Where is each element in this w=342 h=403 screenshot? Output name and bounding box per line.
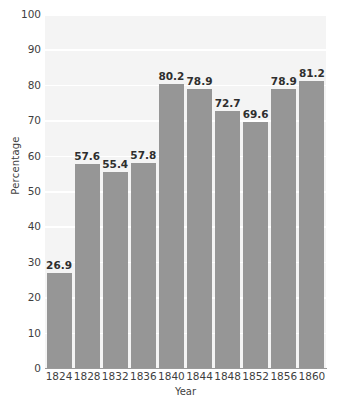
x-axis-tick: 1860 [298, 370, 326, 382]
bar-value-label: 26.9 [45, 259, 73, 271]
bar[interactable] [131, 163, 156, 368]
y-axis-tick: 0 [0, 362, 41, 374]
x-axis-tick: 1840 [157, 370, 185, 382]
bar-value-label: 57.6 [73, 150, 101, 162]
bar[interactable] [75, 164, 100, 368]
bar-value-label: 78.9 [270, 75, 298, 87]
bar-value-label: 55.4 [101, 158, 129, 170]
bar-slot: 78.9 [185, 14, 213, 368]
y-axis-tick: 40 [0, 220, 41, 232]
bar-slot: 72.7 [214, 14, 242, 368]
bar-slot: 80.2 [157, 14, 185, 368]
x-axis-tick: 1828 [73, 370, 101, 382]
x-axis-tick: 1844 [185, 370, 213, 382]
bar-slot: 57.6 [73, 14, 101, 368]
y-axis-tick: 90 [0, 43, 41, 55]
bar-slot: 55.4 [101, 14, 129, 368]
y-axis-tick: 50 [0, 185, 41, 197]
bar-slot: 81.2 [298, 14, 326, 368]
x-axis-tick: 1856 [270, 370, 298, 382]
x-axis-line [45, 368, 327, 369]
bar[interactable] [271, 89, 296, 368]
x-axis-tick: 1852 [242, 370, 270, 382]
x-axis-tick: 1848 [214, 370, 242, 382]
x-axis-tick: 1832 [101, 370, 129, 382]
bar-value-label: 81.2 [298, 67, 326, 79]
bar-value-label: 80.2 [157, 70, 185, 82]
bars-container: 26.957.655.457.880.278.972.769.678.981.2 [45, 14, 326, 368]
y-axis-tick: 20 [0, 291, 41, 303]
y-axis-tick: 60 [0, 150, 41, 162]
y-axis-tick-labels: 0102030405060708090100 [0, 0, 41, 403]
bar[interactable] [47, 273, 72, 368]
x-axis-tick-labels: 1824182818321836184018441848185218561860 [45, 370, 326, 382]
bar-slot: 57.8 [129, 14, 157, 368]
bar-value-label: 69.6 [242, 108, 270, 120]
bar-value-label: 57.8 [129, 149, 157, 161]
bar-value-label: 78.9 [185, 75, 213, 87]
x-axis-tick: 1836 [129, 370, 157, 382]
bar[interactable] [243, 122, 268, 368]
x-axis-title: Year [45, 386, 326, 397]
bar-slot: 26.9 [45, 14, 73, 368]
bar[interactable] [103, 172, 128, 368]
y-axis-tick: 80 [0, 79, 41, 91]
bar-value-label: 72.7 [214, 97, 242, 109]
plot-area: 26.957.655.457.880.278.972.769.678.981.2 [45, 14, 326, 368]
bar-slot: 69.6 [242, 14, 270, 368]
bar[interactable] [159, 84, 184, 368]
y-axis-tick: 10 [0, 327, 41, 339]
x-axis-tick: 1824 [45, 370, 73, 382]
bar-chart: Percentage 0102030405060708090100 26.957… [0, 0, 342, 403]
bar[interactable] [299, 81, 324, 368]
bar[interactable] [187, 89, 212, 368]
bar-slot: 78.9 [270, 14, 298, 368]
y-axis-tick: 100 [0, 8, 41, 20]
y-axis-tick: 30 [0, 256, 41, 268]
bar[interactable] [215, 111, 240, 368]
y-axis-tick: 70 [0, 114, 41, 126]
